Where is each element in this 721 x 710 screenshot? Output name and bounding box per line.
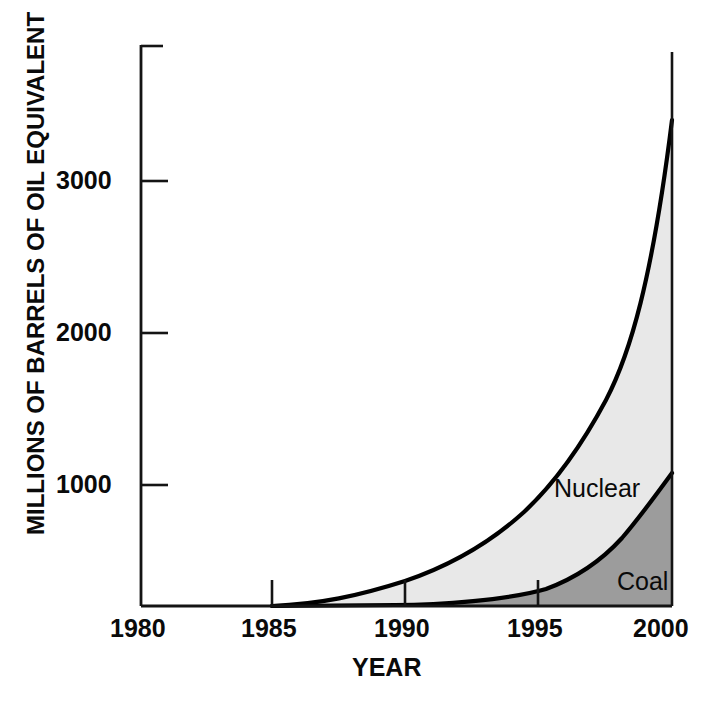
y-tick-label-2000: 2000 <box>56 320 112 345</box>
x-tick-label-1990: 1990 <box>374 616 430 641</box>
series-label-nuclear: Nuclear <box>554 476 640 501</box>
y-tick-label-3000: 3000 <box>56 168 112 193</box>
chart-plot-area <box>0 0 721 710</box>
x-tick-label-1980: 1980 <box>110 616 166 641</box>
y-tick-label-1000: 1000 <box>56 472 112 497</box>
x-tick-label-2000: 2000 <box>633 616 689 641</box>
nuclear-area-fill <box>272 120 672 606</box>
y-axis-title: MILLIONS OF BARRELS OF OIL EQUIVALENT <box>24 12 48 535</box>
x-axis-title: YEAR <box>352 655 421 680</box>
series-label-coal: Coal <box>617 569 668 594</box>
chart-figure: 3000 2000 1000 1980 1985 1990 1995 2000 … <box>0 0 721 710</box>
x-tick-label-1985: 1985 <box>241 616 297 641</box>
x-tick-label-1995: 1995 <box>507 616 563 641</box>
